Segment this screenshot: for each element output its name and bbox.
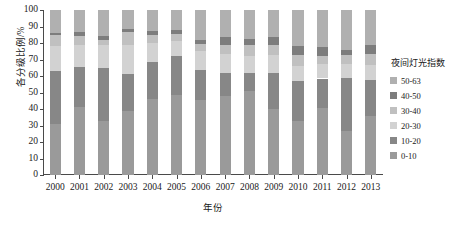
stacked-bar[interactable]	[50, 10, 61, 175]
bar-segment[interactable]	[317, 64, 328, 78]
bar-segment[interactable]	[365, 116, 376, 175]
stacked-bar[interactable]	[98, 10, 109, 175]
stacked-bar[interactable]	[122, 10, 133, 175]
bar-column[interactable]: 2011	[310, 10, 334, 175]
bar-segment[interactable]	[268, 37, 279, 44]
legend-item[interactable]: 40-50	[390, 88, 467, 103]
bar-column[interactable]: 2003	[116, 10, 140, 175]
bar-segment[interactable]	[171, 95, 182, 175]
bar-segment[interactable]	[98, 68, 109, 121]
bar-segment[interactable]	[122, 29, 133, 32]
stacked-bar[interactable]	[171, 10, 182, 175]
bar-segment[interactable]	[98, 45, 109, 68]
bar-segment[interactable]	[74, 36, 85, 45]
bar-segment[interactable]	[341, 10, 352, 50]
stacked-bar[interactable]	[147, 10, 158, 175]
bar-column[interactable]: 2010	[286, 10, 310, 175]
bar-segment[interactable]	[147, 43, 158, 62]
bar-segment[interactable]	[195, 44, 206, 51]
bar-segment[interactable]	[98, 121, 109, 175]
legend-item[interactable]: 50-63	[390, 73, 467, 88]
bar-column[interactable]: 2002	[92, 10, 116, 175]
stacked-bar[interactable]	[244, 10, 255, 175]
bar-segment[interactable]	[195, 51, 206, 70]
bar-column[interactable]: 2012	[334, 10, 358, 175]
bar-segment[interactable]	[171, 41, 182, 56]
bar-segment[interactable]	[74, 67, 85, 107]
bar-segment[interactable]	[220, 45, 231, 54]
bar-segment[interactable]	[74, 45, 85, 67]
bar-segment[interactable]	[220, 37, 231, 44]
bar-column[interactable]: 2001	[67, 10, 91, 175]
bar-segment[interactable]	[220, 73, 231, 96]
bar-column[interactable]: 2007	[213, 10, 237, 175]
bar-segment[interactable]	[268, 55, 279, 72]
bar-segment[interactable]	[50, 46, 61, 71]
bar-segment[interactable]	[244, 10, 255, 39]
bar-column[interactable]: 2013	[359, 10, 383, 175]
bar-segment[interactable]	[317, 47, 328, 56]
stacked-bar[interactable]	[220, 10, 231, 175]
bar-segment[interactable]	[365, 45, 376, 53]
bar-segment[interactable]	[74, 10, 85, 32]
bar-column[interactable]: 2000	[43, 10, 67, 175]
bar-segment[interactable]	[50, 35, 61, 47]
bar-segment[interactable]	[220, 54, 231, 73]
bar-segment[interactable]	[244, 91, 255, 175]
bar-segment[interactable]	[268, 10, 279, 37]
bar-segment[interactable]	[50, 124, 61, 175]
stacked-bar[interactable]	[365, 10, 376, 175]
legend-item[interactable]: 30-40	[390, 103, 467, 118]
bar-segment[interactable]	[122, 111, 133, 175]
bar-column[interactable]: 2004	[140, 10, 164, 175]
bar-column[interactable]: 2005	[164, 10, 188, 175]
bar-segment[interactable]	[195, 40, 206, 44]
stacked-bar[interactable]	[317, 10, 328, 175]
bar-segment[interactable]	[171, 34, 182, 41]
bar-segment[interactable]	[74, 32, 85, 35]
bar-segment[interactable]	[341, 131, 352, 175]
bar-segment[interactable]	[195, 10, 206, 40]
stacked-bar[interactable]	[268, 10, 279, 175]
stacked-bar[interactable]	[292, 10, 303, 175]
bar-segment[interactable]	[244, 73, 255, 91]
bar-segment[interactable]	[122, 32, 133, 44]
bar-segment[interactable]	[195, 100, 206, 175]
bar-segment[interactable]	[317, 79, 328, 109]
bar-segment[interactable]	[220, 96, 231, 175]
bar-segment[interactable]	[365, 80, 376, 115]
bar-segment[interactable]	[171, 10, 182, 30]
bar-segment[interactable]	[292, 121, 303, 175]
legend-item[interactable]: 20-30	[390, 118, 467, 133]
legend-item[interactable]: 10-20	[390, 133, 467, 148]
bar-segment[interactable]	[147, 10, 158, 31]
bar-segment[interactable]	[292, 55, 303, 67]
legend-item[interactable]: 0-10	[390, 148, 467, 163]
bar-segment[interactable]	[50, 33, 61, 35]
bar-segment[interactable]	[50, 10, 61, 33]
bar-segment[interactable]	[171, 30, 182, 34]
bar-segment[interactable]	[292, 66, 303, 81]
bar-segment[interactable]	[74, 107, 85, 175]
bar-segment[interactable]	[268, 45, 279, 56]
bar-segment[interactable]	[147, 35, 158, 43]
bar-segment[interactable]	[122, 10, 133, 29]
bar-segment[interactable]	[341, 50, 352, 56]
bar-segment[interactable]	[292, 10, 303, 46]
bar-segment[interactable]	[244, 39, 255, 45]
bar-segment[interactable]	[244, 56, 255, 73]
bar-segment[interactable]	[365, 65, 376, 80]
bar-segment[interactable]	[98, 36, 109, 40]
stacked-bar[interactable]	[341, 10, 352, 175]
stacked-bar[interactable]	[195, 10, 206, 175]
bar-segment[interactable]	[171, 56, 182, 95]
bar-segment[interactable]	[98, 40, 109, 45]
bar-segment[interactable]	[50, 71, 61, 124]
bar-segment[interactable]	[317, 56, 328, 64]
bar-segment[interactable]	[292, 46, 303, 54]
bar-segment[interactable]	[220, 10, 231, 37]
bar-segment[interactable]	[268, 109, 279, 175]
bar-segment[interactable]	[122, 74, 133, 111]
bar-segment[interactable]	[317, 108, 328, 175]
bar-segment[interactable]	[147, 62, 158, 99]
